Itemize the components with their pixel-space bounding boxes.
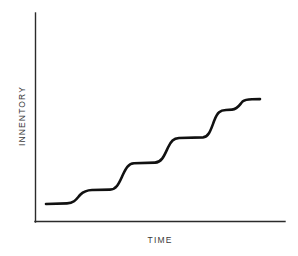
x-axis-label: TIME — [148, 235, 173, 245]
y-axis-label-group: INNENTORY — [17, 86, 27, 146]
chart-container: INNENTORY TIME — [0, 0, 298, 256]
chart-background — [0, 0, 298, 256]
inventory-over-time-chart: INNENTORY TIME — [0, 0, 298, 256]
y-axis-label: INNENTORY — [17, 86, 27, 146]
